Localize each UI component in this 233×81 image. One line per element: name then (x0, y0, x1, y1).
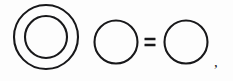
circle-left (95, 21, 138, 64)
equals-sign-upper-bar (145, 38, 156, 41)
figure-canvas: , ◎ ○ = ○ , Annulus (double concentric c… (0, 0, 233, 81)
equals-sign-lower-bar (145, 44, 156, 47)
comma-glyph: , (214, 54, 218, 70)
annulus-inner-circle (25, 16, 67, 58)
annulus-outer-circle (14, 5, 78, 69)
geometric-equation-diagram: , (0, 0, 233, 81)
circle-right (165, 21, 208, 64)
